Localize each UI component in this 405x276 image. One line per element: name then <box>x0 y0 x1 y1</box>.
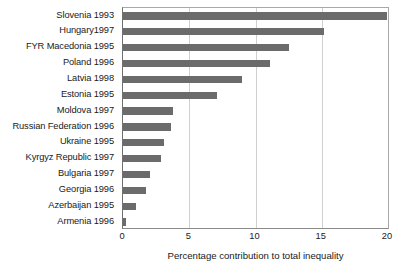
x-tick-label: 0 <box>119 231 124 241</box>
category-label: Georgia 1996 <box>59 182 114 197</box>
bar <box>123 107 173 114</box>
category-label: Hungary1997 <box>59 23 114 38</box>
category-label: Ukraine 1995 <box>60 134 114 149</box>
x-tick-label: 5 <box>186 231 191 241</box>
value-axis-ticks: 05101520 <box>122 231 389 245</box>
bar <box>123 76 242 83</box>
bar <box>123 92 217 99</box>
x-tick-label: 15 <box>316 231 326 241</box>
x-tick-label: 20 <box>382 231 392 241</box>
category-label: Russian Federation 1996 <box>12 119 114 134</box>
category-label: Slovenia 1993 <box>56 8 114 23</box>
category-label: Bulgaria 1997 <box>58 166 114 181</box>
category-label: Kyrgyz Republic 1997 <box>26 150 114 165</box>
bar <box>123 139 164 146</box>
bar <box>123 12 387 19</box>
plot-area <box>122 7 389 229</box>
x-axis-title: Percentage contribution to total inequal… <box>122 250 389 261</box>
bar <box>123 123 171 130</box>
bar <box>123 60 270 67</box>
x-tick-label: 10 <box>249 231 259 241</box>
category-label: Armenia 1996 <box>57 214 114 229</box>
bar <box>123 218 126 225</box>
bar <box>123 203 136 210</box>
bar-series <box>123 8 388 228</box>
bar <box>123 187 146 194</box>
category-label: Moldova 1997 <box>57 103 114 118</box>
category-axis: Slovenia 1993Hungary1997FYR Macedonia 19… <box>0 7 118 229</box>
category-label: FYR Macedonia 1995 <box>26 39 114 54</box>
category-label: Azerbaijan 1995 <box>48 198 114 213</box>
category-label: Latvia 1998 <box>67 71 114 86</box>
bar <box>123 44 289 51</box>
bar-chart: Slovenia 1993Hungary1997FYR Macedonia 19… <box>0 0 405 276</box>
bar <box>123 28 324 35</box>
category-label: Poland 1996 <box>63 55 114 70</box>
bar <box>123 171 150 178</box>
bar <box>123 155 161 162</box>
category-label: Estonia 1995 <box>61 87 114 102</box>
